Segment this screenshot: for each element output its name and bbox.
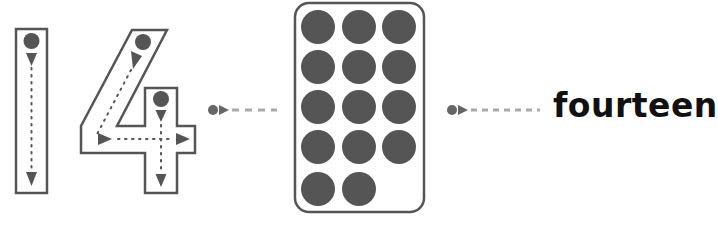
counter-dot-icon (301, 130, 335, 164)
start-dot-icon (24, 33, 40, 49)
counter-dot-icon (382, 130, 416, 164)
counter-dot-icon (342, 130, 376, 164)
counter-dot-icon (342, 172, 376, 206)
counter-dot-icon (301, 172, 335, 206)
counter-dot-icon (301, 10, 335, 44)
counter-dot-icon (301, 90, 335, 124)
connector-arrow-icon (208, 105, 277, 115)
digit-four-tracing (81, 30, 195, 193)
connector-arrow-icon (447, 105, 540, 115)
counter-dot-icon (342, 50, 376, 84)
digit-one-tracing (16, 29, 47, 193)
counter-dot-icon (382, 90, 416, 124)
number-word: fourteen (553, 86, 718, 126)
counter-dot-icon (301, 50, 335, 84)
counters-card (295, 3, 424, 212)
counter-dot-icon (342, 10, 376, 44)
start-dot-icon (135, 34, 151, 50)
counter-dot-icon (382, 10, 416, 44)
counter-dot-icon (382, 50, 416, 84)
counter-dot-icon (342, 90, 376, 124)
start-dot-icon (153, 91, 169, 107)
